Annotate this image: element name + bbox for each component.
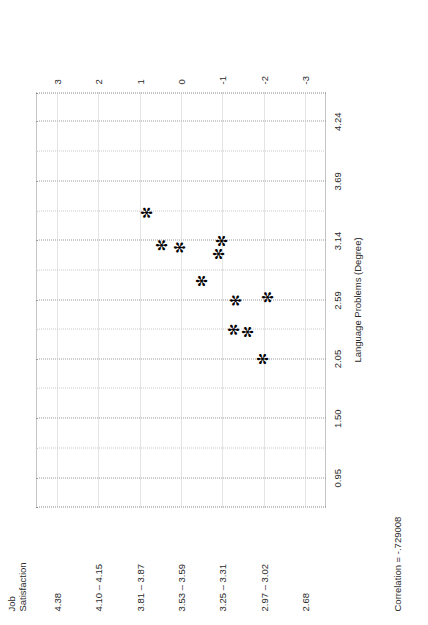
gridline-horizontal — [222, 92, 223, 507]
data-point — [196, 274, 209, 287]
chart-page: Job Satisfaction 0.951.502.052.593.143.6… — [0, 0, 428, 625]
y-category-label: 4.38 — [51, 593, 62, 612]
gridline-horizontal — [98, 92, 99, 507]
y-category-label: 3.25 – 3.31 — [217, 563, 228, 611]
gridline-vertical-minor — [36, 387, 326, 388]
y-category-label: 2.68 — [300, 593, 311, 612]
x-tick-label: 4.24 — [332, 112, 343, 131]
x-axis-title: Language Problems (Degree) — [352, 92, 363, 507]
data-point — [213, 247, 226, 260]
data-point — [230, 294, 243, 307]
data-point — [242, 325, 255, 338]
gridline-horizontal — [305, 92, 306, 507]
y-tick-label-numeric: 1 — [134, 79, 145, 84]
y-category-label: 3.81 – 3.87 — [134, 563, 145, 611]
gridline-horizontal — [181, 92, 182, 507]
y-tick-label-numeric: 3 — [51, 79, 62, 84]
y-tick-label-numeric: -1 — [217, 76, 228, 84]
gridline-vertical-minor — [36, 269, 326, 270]
data-point — [141, 206, 154, 219]
y-category-label: 2.97 – 3.02 — [258, 563, 269, 611]
gridline-vertical-minor — [36, 328, 326, 329]
data-point — [262, 290, 275, 303]
y-tick-label-numeric: -3 — [300, 76, 311, 84]
correlation-annotation: Correlation = -.729008 — [392, 516, 403, 611]
x-tick-label: 0.95 — [332, 469, 343, 488]
scatterplot: Job Satisfaction 0.951.502.052.593.143.6… — [0, 0, 428, 625]
data-point — [216, 234, 229, 247]
y-axis-title: Job Satisfaction — [6, 562, 28, 611]
x-tick-label: 2.05 — [332, 349, 343, 368]
plot-area — [36, 92, 326, 507]
gridline-vertical-minor — [36, 150, 326, 151]
rotated-sheet: Job Satisfaction 0.951.502.052.593.143.6… — [0, 0, 428, 625]
gridline-vertical-minor — [36, 210, 326, 211]
data-point — [257, 352, 270, 365]
y-tick-label-numeric: 2 — [93, 79, 104, 84]
y-category-label: 4.10 – 4.15 — [93, 563, 104, 611]
gridline-vertical-minor — [36, 447, 326, 448]
x-tick-label: 3.14 — [332, 231, 343, 250]
y-tick-label-numeric: 0 — [176, 79, 187, 84]
gridline-horizontal — [57, 92, 58, 507]
gridline-horizontal — [140, 92, 141, 507]
x-tick-label: 2.59 — [332, 291, 343, 310]
data-point — [156, 238, 169, 251]
y-category-label: 3.53 – 3.59 — [176, 563, 187, 611]
data-point — [174, 240, 187, 253]
x-tick-label: 3.69 — [332, 172, 343, 191]
y-tick-label-numeric: -2 — [258, 76, 269, 84]
x-tick-label: 1.50 — [332, 409, 343, 428]
